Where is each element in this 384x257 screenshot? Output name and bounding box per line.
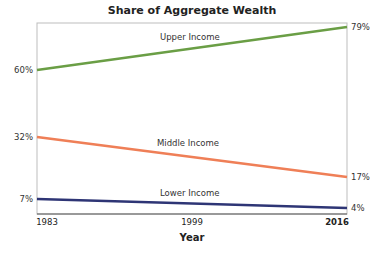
series-middle-income-label: Middle Income [157, 138, 219, 148]
upper-start-value: 60% [14, 65, 33, 75]
x-tick-2016: 2016 [325, 217, 349, 227]
series-upper-income-label: Upper Income [160, 32, 220, 42]
upper-end-value: 79% [351, 22, 370, 32]
x-axis-title: Year [0, 232, 384, 243]
series-lower-income-label: Lower Income [160, 188, 219, 198]
series-lower-income-line [37, 199, 347, 208]
middle-start-value: 32% [14, 132, 33, 142]
lower-end-value: 4% [351, 203, 365, 213]
middle-end-value: 17% [351, 172, 370, 182]
lower-start-value: 7% [20, 194, 34, 204]
x-tick-1983: 1983 [36, 217, 58, 227]
line-chart: Upper Income 60% 79% Middle Income 32% 1… [0, 0, 384, 257]
plot-frame [37, 23, 347, 214]
x-tick-1999: 1999 [181, 217, 203, 227]
